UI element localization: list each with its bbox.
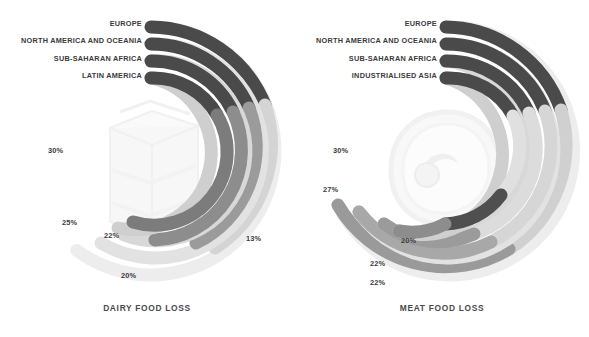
meat-label-europe: EUROPE [316, 20, 437, 27]
meat-label-industrialised-asia: INDUSTRIALISED ASIA [316, 72, 437, 79]
chart-panel-meat: EUROPE NORTH AMERICA AND OCEANIA SUB-SAH… [295, 0, 589, 337]
meat-label-sub-saharan-africa: SUB-SAHARAN AFRICA [316, 55, 437, 62]
dairy-label-sub-saharan-africa: SUB-SAHARAN AFRICA [21, 55, 142, 62]
chart-panel-dairy: EUROPE NORTH AMERICA AND OCEANIA SUB-SAH… [0, 0, 294, 337]
meat-reference-percent: 30% [333, 147, 348, 154]
dairy-label-north-america-oceania: NORTH AMERICA AND OCEANIA [21, 37, 142, 44]
meat-series-label-list: EUROPE NORTH AMERICA AND OCEANIA SUB-SAH… [316, 20, 437, 79]
dairy-percent-sub-saharan-africa: 22% [104, 232, 119, 239]
dairy-percent-north-america-oceania: 20% [121, 272, 136, 279]
dairy-reference-percent: 30% [48, 147, 63, 154]
dairy-series-label-list: EUROPE NORTH AMERICA AND OCEANIA SUB-SAH… [21, 20, 142, 79]
dairy-percent-latin-america: 25% [62, 219, 77, 226]
dairy-chart-title: DAIRY FOOD LOSS [0, 303, 294, 313]
dairy-label-latin-america: LATIN AMERICA [21, 72, 142, 79]
meat-label-north-america-oceania: NORTH AMERICA AND OCEANIA [316, 37, 437, 44]
meat-percent-north-america-oceania: 22% [370, 260, 385, 267]
meat-percent-sub-saharan-africa: 20% [401, 237, 416, 244]
meat-chart-title: MEAT FOOD LOSS [295, 303, 589, 313]
dairy-label-europe: EUROPE [21, 20, 142, 27]
meat-percent-europe: 22% [370, 279, 385, 286]
meat-percent-industrialised-asia: 27% [323, 186, 338, 193]
dairy-percent-europe: 13% [246, 235, 261, 242]
